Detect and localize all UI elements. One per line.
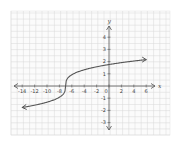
y-tick-label: 3	[103, 46, 106, 52]
x-tick-label: -12	[31, 88, 39, 94]
grid-background	[11, 11, 170, 135]
x-tick-label: 4	[132, 88, 135, 94]
x-tick-label: -4	[82, 88, 87, 94]
y-tick-label: -1	[101, 95, 106, 101]
x-tick-label: 2	[120, 88, 123, 94]
x-tick-label: -2	[94, 88, 99, 94]
x-tick-label: -14	[18, 88, 26, 94]
y-tick-label: -2	[101, 107, 106, 113]
x-tick-label: 6	[145, 88, 148, 94]
x-tick-label: -10	[43, 88, 51, 94]
y-axis-label: y	[107, 17, 112, 25]
y-tick-label: 1	[103, 71, 106, 77]
y-tick-label: -3	[101, 119, 106, 125]
x-tick-label: 0	[104, 88, 107, 94]
chart: xy -14-12-10-8-6-4-20246-3-2-11234	[0, 0, 181, 143]
y-tick-label: 2	[103, 58, 106, 64]
grid	[11, 11, 170, 135]
x-tick-label: -6	[69, 88, 74, 94]
y-tick-label: 4	[103, 34, 106, 40]
x-tick-label: -8	[57, 88, 62, 94]
